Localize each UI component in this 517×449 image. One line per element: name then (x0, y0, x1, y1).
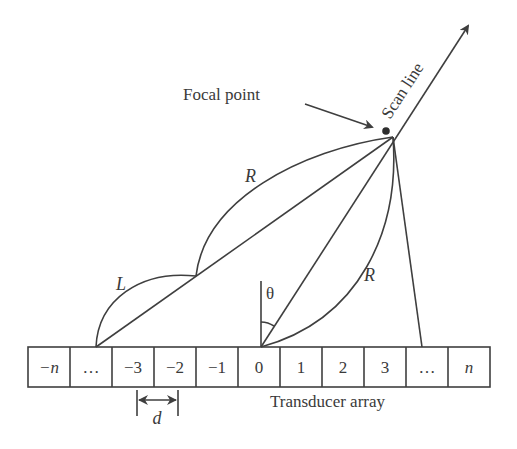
element-label: 2 (339, 358, 348, 377)
scan-line-label: Scan line (377, 59, 427, 122)
element-label: 3 (381, 358, 390, 377)
pitch-label: d (153, 408, 163, 428)
focal-point-dot (382, 127, 390, 135)
element-label: −n (39, 358, 59, 377)
focal-pointer-arrow (305, 104, 372, 127)
transducer-array: −n … −3 −2 −1 0 1 2 3 … n (28, 347, 490, 387)
arc-R-lower-label: R (363, 265, 375, 285)
arc-R-upper-label: R (244, 166, 256, 186)
element-label: −2 (166, 358, 184, 377)
focal-point-label: Focal point (183, 85, 260, 104)
diagram-svg: −n … −3 −2 −1 0 1 2 3 … n d Transducer a… (0, 0, 517, 449)
beamforming-diagram: −n … −3 −2 −1 0 1 2 3 … n d Transducer a… (0, 0, 517, 449)
path-right-element (393, 137, 422, 347)
element-label: 1 (297, 358, 306, 377)
element-label: −1 (208, 358, 226, 377)
arc-L-label: L (115, 274, 126, 294)
scan-line (261, 26, 468, 347)
transducer-array-label: Transducer array (270, 392, 386, 411)
element-label: … (83, 358, 100, 377)
element-label: … (419, 358, 436, 377)
element-label: 0 (255, 358, 264, 377)
angle-arc (261, 322, 274, 326)
element-label: n (465, 358, 474, 377)
pitch-dimension: d (137, 390, 178, 428)
theta-label: θ (266, 284, 274, 303)
element-label: −3 (124, 358, 142, 377)
